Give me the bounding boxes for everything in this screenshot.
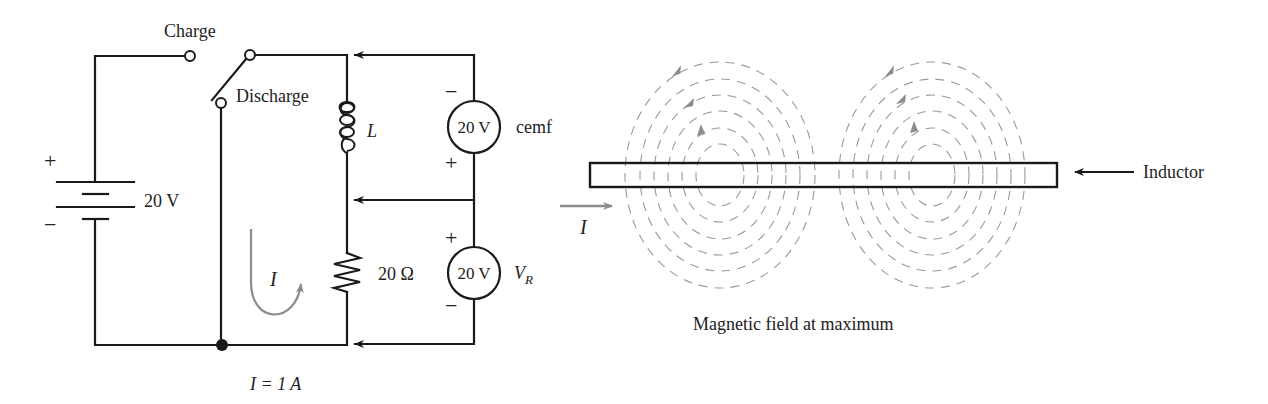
diagram-canvas: + − 20 V Charge Discharge L 20 [0, 0, 1268, 404]
current-value-label: I = 1 A [249, 374, 302, 394]
vr-bottom-sign: − [445, 293, 457, 318]
charge-label: Charge [164, 21, 216, 41]
battery-symbol [57, 182, 134, 219]
right-field-lines [839, 62, 1025, 288]
field-current-label: I [579, 216, 588, 238]
battery-plus-sign: + [44, 148, 56, 173]
resistor-value-label: 20 Ω [378, 264, 414, 284]
current-loop-label: I [269, 268, 278, 290]
discharge-label: Discharge [236, 86, 309, 106]
cemf-top-sign: − [445, 79, 457, 104]
circuit-schematic: + − 20 V Charge Discharge L 20 [44, 21, 552, 394]
battery-top-wire [95, 56, 185, 182]
left-field-lines [625, 62, 815, 288]
battery-voltage-label: 20 V [144, 191, 179, 211]
magnetic-field-diagram: I Inductor Magnetic field at maximum [560, 62, 1204, 334]
cemf-bottom-sign: + [445, 150, 457, 175]
inductor-bar [590, 163, 1057, 187]
discharge-terminal [216, 98, 226, 108]
battery-minus-sign: − [44, 212, 56, 237]
inductor-label: L [366, 121, 377, 141]
vr-top-sign: + [445, 225, 457, 250]
inductor-callout-label: Inductor [1143, 162, 1204, 182]
vr-meter-reading: 20 V [457, 264, 491, 283]
resistor-symbol [334, 253, 360, 292]
cemf-meter-reading: 20 V [457, 118, 491, 137]
charge-terminal [185, 51, 195, 61]
field-caption: Magnetic field at maximum [693, 314, 893, 334]
cemf-label: cemf [516, 117, 552, 137]
bottom-wire [222, 292, 347, 345]
battery-bottom-wire [95, 219, 222, 345]
inductor-symbol [340, 102, 355, 153]
vr-label: VR [514, 263, 533, 287]
